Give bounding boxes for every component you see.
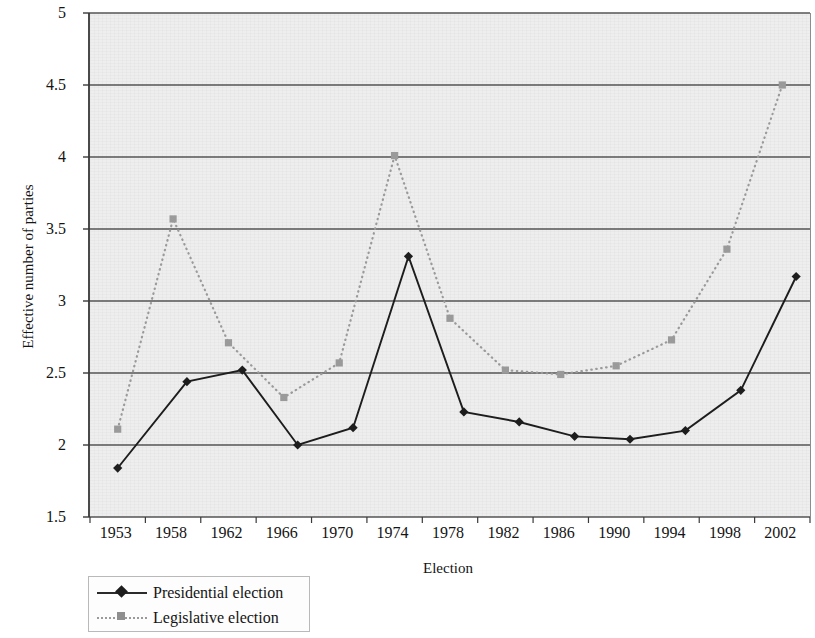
x-axis-tick-label: 1962 [196,524,256,542]
y-axis-tick-label: 2.5 [24,365,66,381]
legend-label-presidential: Presidential election [149,584,283,602]
data-point-marker [502,367,509,374]
data-point-marker [613,362,620,369]
x-axis-tick-labels: 1953195819621966197019741978198219861990… [88,524,808,550]
x-axis-tick-label: 1974 [363,524,423,542]
chart-legend: Presidential election Legislative electi… [88,576,310,632]
series-line-presidential [118,256,797,468]
series-layer [90,13,810,517]
data-point-marker [114,426,121,433]
y-axis-tick-labels: 54.543.532.521.5 [22,0,66,530]
data-point-marker [570,432,579,441]
x-axis-tick-label: 1990 [584,524,644,542]
data-point-marker [515,417,524,426]
y-axis-tick-label: 5 [24,5,66,21]
data-point-marker [625,435,634,444]
x-axis-tick-label: 2002 [750,524,810,542]
y-axis-tick-label: 3.5 [24,221,66,237]
data-point-marker [225,339,232,346]
data-point-marker [336,359,343,366]
data-point-marker [792,272,801,281]
data-point-marker [557,371,564,378]
chart-figure: Effective number of parties 54.543.532.5… [0,0,815,638]
x-axis-tick-label: 1982 [473,524,533,542]
y-axis-tick-label: 4.5 [24,77,66,93]
y-axis-tick-label: 1.5 [24,509,66,525]
data-point-marker [391,152,398,159]
x-axis-tick-label: 1998 [695,524,755,542]
data-point-marker [169,215,176,222]
data-point-marker [723,246,730,253]
legend-key-dotted-square [95,610,149,626]
x-axis-tick-label: 1958 [141,524,201,542]
data-point-marker [404,252,413,261]
data-point-marker [348,423,357,432]
data-point-marker [446,315,453,322]
x-axis-tick-label: 1953 [86,524,146,542]
data-point-marker [459,407,468,416]
plot-area [88,13,811,517]
x-axis-title: Election [88,560,808,577]
x-axis-tick-label: 1986 [529,524,589,542]
y-axis-tick-label: 3 [24,293,66,309]
legend-item-presidential: Presidential election [95,580,303,605]
series-line-legislative [118,85,783,429]
data-point-marker [779,81,786,88]
x-axis-tick-label: 1994 [640,524,700,542]
x-axis-tick-label: 1966 [252,524,312,542]
y-axis-tick-label: 4 [24,149,66,165]
x-axis-tick-label: 1970 [307,524,367,542]
legend-key-solid-diamond [95,585,149,601]
data-point-marker [280,394,287,401]
x-axis-tick-label: 1978 [418,524,478,542]
legend-label-legislative: Legislative election [149,609,279,627]
y-axis-tick-label: 2 [24,437,66,453]
legend-item-legislative: Legislative election [95,605,303,630]
data-point-marker [668,336,675,343]
